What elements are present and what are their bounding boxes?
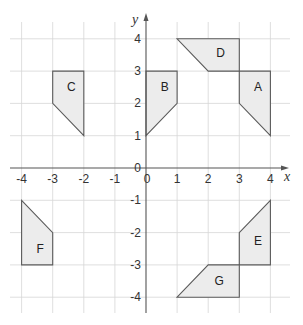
y-tick-label: 4 <box>134 32 141 46</box>
y-tick-label: 3 <box>134 64 141 78</box>
x-tick-label: -1 <box>110 172 121 186</box>
y-tick-label: -1 <box>130 193 141 207</box>
shape-label-b: B <box>161 80 169 94</box>
x-tick-label: 3 <box>236 172 243 186</box>
y-tick-label: 2 <box>134 96 141 110</box>
shape-label-c: C <box>67 80 76 94</box>
shape-label-e: E <box>254 234 262 248</box>
y-tick-label: 0 <box>134 161 141 175</box>
shape-label-g: G <box>214 274 223 288</box>
shape-d <box>177 39 239 71</box>
shape-e <box>239 200 270 265</box>
y-axis-arrow-icon <box>144 13 149 21</box>
y-tick-label: -3 <box>130 258 141 272</box>
x-tick-label: 0 <box>144 172 151 186</box>
coordinate-grid: x y -4-3-2-10123443210-1-2-3-4 ABCDEFG <box>0 0 303 325</box>
x-tick-label: 1 <box>174 172 181 186</box>
shape-label-a: A <box>254 80 262 94</box>
x-tick-label: -3 <box>47 172 58 186</box>
x-tick-label: 2 <box>205 172 212 186</box>
y-tick-label: -4 <box>130 290 141 304</box>
y-axis-label: y <box>130 12 139 27</box>
axes: x y <box>10 12 291 313</box>
shape-label-f: F <box>37 242 44 256</box>
x-tick-label: -4 <box>16 172 27 186</box>
shape-g <box>177 265 239 297</box>
y-tick-label: 1 <box>134 129 141 143</box>
shape-label-d: D <box>216 46 225 60</box>
x-tick-label: -2 <box>78 172 89 186</box>
x-tick-label: 4 <box>267 172 274 186</box>
y-tick-label: -2 <box>130 226 141 240</box>
x-axis-label: x <box>283 169 291 184</box>
